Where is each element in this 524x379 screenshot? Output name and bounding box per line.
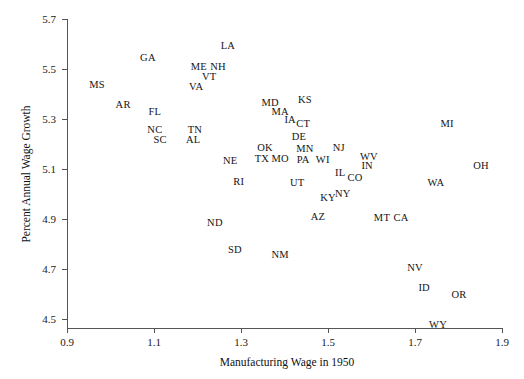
x-tick-mark	[67, 328, 68, 333]
data-point-vt: VT	[202, 71, 216, 82]
x-tick-label: 1.3	[221, 336, 261, 348]
data-point-ky: KY	[320, 192, 336, 203]
data-point-wa: WA	[428, 177, 445, 188]
x-tick-label: 1.5	[308, 336, 348, 348]
data-point-al: AL	[186, 134, 200, 145]
x-tick-mark	[241, 328, 242, 333]
y-tick-mark	[62, 269, 67, 270]
x-tick-label: 0.9	[47, 336, 87, 348]
data-point-oh: OH	[473, 160, 489, 171]
data-point-id: ID	[418, 282, 429, 293]
x-tick-mark	[502, 328, 503, 333]
data-point-or: OR	[451, 289, 466, 300]
y-tick-mark	[62, 169, 67, 170]
data-point-ia: IA	[284, 114, 295, 125]
data-point-fl: FL	[149, 106, 162, 117]
x-tick-mark	[415, 328, 416, 333]
x-tick-mark	[154, 328, 155, 333]
data-point-mn: MN	[296, 143, 313, 154]
data-point-mo: MO	[271, 153, 288, 164]
data-point-ut: UT	[290, 177, 304, 188]
y-tick-mark	[62, 219, 67, 220]
data-point-ga: GA	[140, 52, 156, 63]
data-point-mi: MI	[441, 118, 454, 129]
x-tick-label: 1.7	[395, 336, 435, 348]
data-point-wi: WI	[316, 154, 330, 165]
y-tick-label: 5.7	[24, 13, 56, 25]
data-point-ca: CA	[394, 212, 409, 223]
data-point-il: IL	[335, 167, 345, 178]
x-axis-title: Manufacturing Wage in 1950	[167, 356, 407, 368]
data-point-az: AZ	[311, 211, 325, 222]
data-point-la: LA	[221, 40, 235, 51]
data-point-ms: MS	[89, 79, 105, 90]
y-tick-mark	[62, 19, 67, 20]
y-tick-label: 4.5	[24, 313, 56, 325]
data-point-va: VA	[189, 81, 203, 92]
data-point-de: DE	[292, 131, 306, 142]
data-point-sc: SC	[153, 134, 166, 145]
x-tick-label: 1.1	[134, 336, 174, 348]
data-point-ks: KS	[298, 94, 312, 105]
data-point-ok: OK	[257, 142, 273, 153]
data-point-ny: NY	[335, 188, 351, 199]
data-point-in: IN	[361, 160, 372, 171]
scatter-plot-figure: 0.91.11.31.51.71.9 5.75.55.35.14.94.74.5…	[0, 0, 524, 379]
x-tick-mark	[328, 328, 329, 333]
data-point-ne: NE	[223, 155, 237, 166]
data-point-nj: NJ	[333, 142, 345, 153]
data-point-nv: NV	[407, 262, 423, 273]
y-axis-line	[67, 19, 68, 328]
data-point-mt: MT	[374, 212, 390, 223]
data-point-pa: PA	[297, 154, 310, 165]
data-point-ar: AR	[116, 99, 131, 110]
y-axis-title: Percent Annual Wage Growth	[20, 74, 32, 274]
data-point-nd: ND	[207, 217, 223, 228]
x-tick-label: 1.9	[482, 336, 522, 348]
data-point-tx: TX	[255, 153, 269, 164]
data-point-nm: NM	[271, 249, 288, 260]
y-tick-mark	[62, 319, 67, 320]
y-tick-mark	[62, 69, 67, 70]
y-tick-mark	[62, 119, 67, 120]
data-point-co: CO	[347, 172, 362, 183]
data-point-ri: RI	[233, 176, 244, 187]
data-point-wy: WY	[429, 319, 447, 330]
data-point-ct: CT	[296, 118, 310, 129]
data-point-sd: SD	[228, 244, 242, 255]
